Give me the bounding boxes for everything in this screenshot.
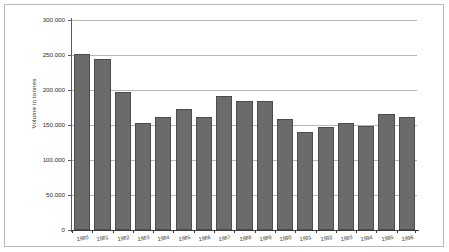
y-tick-label: 250.000 xyxy=(19,51,65,58)
x-tick-mark xyxy=(336,230,337,233)
bar xyxy=(135,123,151,230)
y-tick-label: 100.000 xyxy=(19,156,65,163)
y-tick-label: 200.000 xyxy=(19,86,65,93)
x-tick-mark xyxy=(415,230,416,233)
y-tick-label: 150.000 xyxy=(19,121,65,128)
x-tick-mark xyxy=(214,230,215,233)
bar xyxy=(196,117,212,230)
x-axis-line xyxy=(71,230,419,231)
x-tick-mark xyxy=(397,230,398,233)
bar xyxy=(358,126,374,230)
y-tick-label: 50.000 xyxy=(19,191,65,198)
x-tick-mark xyxy=(92,230,93,233)
bar xyxy=(115,92,131,230)
bar xyxy=(176,109,192,230)
bar xyxy=(216,96,232,230)
gridline xyxy=(72,20,417,21)
bar xyxy=(338,123,354,230)
x-tick-mark xyxy=(255,230,256,233)
bar xyxy=(257,101,273,230)
bar xyxy=(297,132,313,230)
y-tick-label: 300.000 xyxy=(19,16,65,23)
x-tick-mark xyxy=(356,230,357,233)
x-tick-mark xyxy=(234,230,235,233)
y-axis-title: Volume in tonnes xyxy=(30,44,37,164)
x-tick-mark xyxy=(275,230,276,233)
bar xyxy=(155,117,171,230)
bar xyxy=(94,59,110,231)
x-tick-mark xyxy=(113,230,114,233)
gridline xyxy=(72,90,417,91)
x-tick-mark xyxy=(194,230,195,233)
bar xyxy=(318,127,334,230)
x-tick-mark xyxy=(316,230,317,233)
x-tick-mark xyxy=(173,230,174,233)
x-tick-mark xyxy=(72,230,73,233)
gridline xyxy=(72,55,417,56)
x-tick-mark xyxy=(133,230,134,233)
bar xyxy=(378,114,394,230)
bar xyxy=(236,101,252,230)
plot-area xyxy=(72,20,417,230)
chart-figure: Volume in tonnes 050.000100.000150.00020… xyxy=(0,0,449,252)
bar xyxy=(399,117,415,230)
x-tick-mark xyxy=(153,230,154,233)
bar xyxy=(277,119,293,230)
bar xyxy=(74,54,90,230)
x-tick-mark xyxy=(376,230,377,233)
x-tick-mark xyxy=(295,230,296,233)
y-tick-label: 0 xyxy=(19,226,65,233)
